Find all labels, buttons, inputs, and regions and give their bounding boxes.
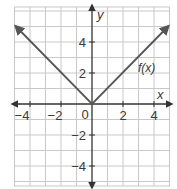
x-tick-label: 4 <box>150 108 157 123</box>
graph: y x −4 −2 0 2 4 4 2 −2 −4 f(x) <box>0 0 177 189</box>
y-tick-label: 2 <box>79 66 86 81</box>
x-tick-label: −4 <box>15 108 30 123</box>
origin-label: 0 <box>81 107 88 122</box>
curve-label: f(x) <box>138 61 155 75</box>
x-tick-label: −2 <box>48 108 63 123</box>
x-axis-title: x <box>156 87 164 102</box>
y-axis-title: y <box>96 7 105 22</box>
y-tick-label: −4 <box>71 159 86 174</box>
x-tick-label: 2 <box>119 108 126 123</box>
y-tick-label: 4 <box>79 35 86 50</box>
y-tick-label: −2 <box>71 128 86 143</box>
